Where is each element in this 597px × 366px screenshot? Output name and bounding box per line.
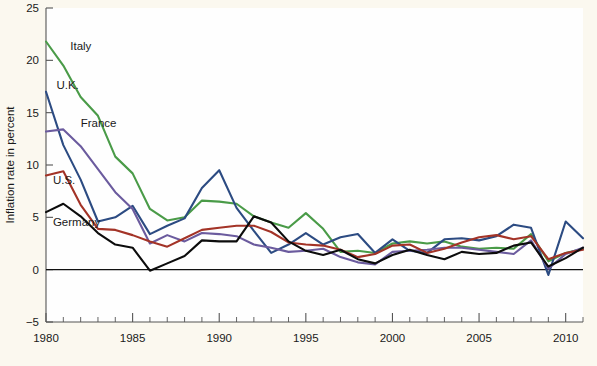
x-tick-label: 2005 [466,332,492,344]
chart-figure: ItalyU.K.FranceU.S.Germany −50510152025 … [0,0,597,366]
y-tick-label: 25 [26,2,39,14]
y-axis-ticks [46,8,53,322]
y-tick-label: 0 [33,264,39,276]
x-tick-label: 1990 [206,332,232,344]
y-tick-label: −5 [26,316,39,328]
y-axis-title: Inflation rate in percent [4,106,16,224]
x-tick-label: 2010 [553,332,579,344]
x-tick-label: 1995 [293,332,319,344]
y-tick-label: 20 [26,54,39,66]
y-tick-label: 10 [26,159,39,171]
series-label-us: U.S. [53,174,75,186]
y-axis-tick-labels: −50510152025 [26,2,39,328]
series-line-italy [46,41,583,261]
x-tick-label: 1985 [120,332,146,344]
x-axis-ticks [46,313,583,322]
x-tick-label: 1980 [33,332,59,344]
x-tick-label: 2000 [380,332,406,344]
series-label-france: France [81,117,117,129]
x-axis-tick-labels: 1980198519901995200020052010 [33,332,578,344]
y-tick-label: 5 [33,211,39,223]
series-label-uk: U.K. [56,79,78,91]
y-tick-label: 15 [26,107,39,119]
series-label-italy: Italy [70,40,91,52]
series-inline-labels: ItalyU.K.FranceU.S.Germany [53,40,117,228]
series-label-germany: Germany [53,216,101,228]
data-series-group [46,41,583,274]
line-chart: ItalyU.K.FranceU.S.Germany −50510152025 … [0,0,597,366]
